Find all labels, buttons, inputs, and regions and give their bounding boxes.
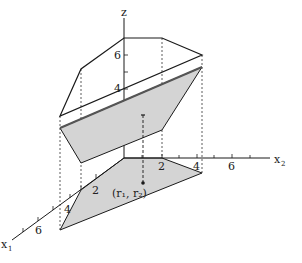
z-axis-label: z (121, 6, 127, 19)
x1-axis-subscript: 1 (8, 245, 12, 253)
x1-tick-6: 6 (35, 224, 42, 237)
point-r1-r2 (141, 181, 145, 185)
diagram-canvas: 2 4 6 x 2 2 4 6 x 1 4 6 z (0, 0, 302, 263)
figure: 2 4 6 x 2 2 4 6 x 1 4 6 z (0, 0, 302, 263)
x1-axis-label: x (1, 238, 8, 251)
x2-tick-6: 6 (228, 160, 235, 173)
x2-axis-label: x (274, 153, 281, 166)
x1-tick-4: 4 (64, 203, 71, 216)
x1-tick-2: 2 (92, 184, 99, 197)
x2-tick-2: 2 (158, 160, 165, 173)
x2-tick-4: 4 (193, 160, 200, 173)
point-label: (r₁, r₂) (112, 187, 147, 200)
x2-axis-subscript: 2 (281, 160, 285, 168)
